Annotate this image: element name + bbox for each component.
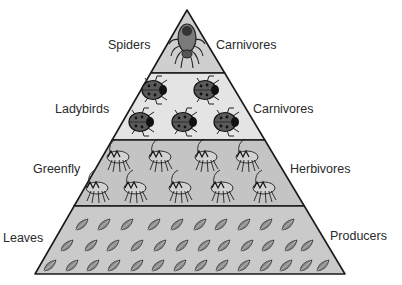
tier-4-band — [35, 206, 345, 274]
tier-1-role-label: Carnivores — [216, 38, 276, 52]
tier-4-role-label: Producers — [330, 229, 387, 243]
tier-2-organism-label: Ladybirds — [55, 102, 109, 116]
food-pyramid-diagram: Spiders Carnivores Ladybirds Carnivores … — [0, 0, 402, 285]
tier-1-organism-label: Spiders — [108, 38, 150, 52]
tier-3-organism-label: Greenfly — [33, 162, 80, 176]
tier-4-organism-label: Leaves — [3, 231, 43, 245]
tier-3-role-label: Herbivores — [290, 162, 350, 176]
tier-2-role-label: Carnivores — [253, 102, 313, 116]
tier-3-band — [74, 140, 304, 206]
